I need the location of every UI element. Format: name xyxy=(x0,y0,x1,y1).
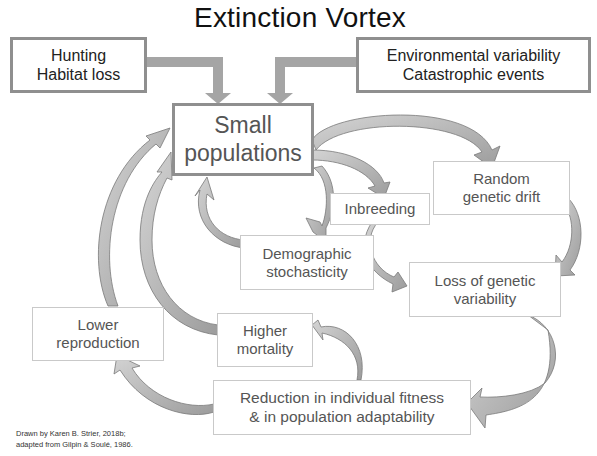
arrow-env-to-small xyxy=(267,57,357,104)
credit-line1: Drawn by Karen B. Strier, 2018b; xyxy=(16,429,133,440)
node-random-genetic-drift: Random genetic drift xyxy=(433,161,570,215)
node-loss-genetic-variability: Loss of genetic variability xyxy=(409,262,561,317)
arrow-hunting-to-small xyxy=(146,57,231,104)
node-lower-reproduction: Lower reproduction xyxy=(32,307,164,361)
node-environmental-line1: Environmental variability xyxy=(387,46,560,65)
node-small-line1: Small xyxy=(184,112,302,140)
node-environmental-line2: Catastrophic events xyxy=(387,65,560,84)
arrow-demographic-to-small xyxy=(195,177,244,248)
node-higher-mortality: Higher mortality xyxy=(217,313,313,367)
node-mortality-line1: Higher xyxy=(237,322,294,340)
credit-line2: adapted from Gilpin & Soulé, 1986. xyxy=(16,440,133,451)
node-small-line2: populations xyxy=(184,140,302,168)
node-reduction-fitness-adaptability: Reduction in individual fitness & in pop… xyxy=(213,380,471,435)
node-hunting-line1: Hunting xyxy=(37,46,121,65)
node-mortality-line2: mortality xyxy=(237,340,294,358)
node-demographic-line1: Demographic xyxy=(262,245,351,263)
arrow-reduction-to-mortality xyxy=(312,320,362,380)
node-drift-line2: genetic drift xyxy=(463,188,541,206)
node-reduction-line2: & in population adaptability xyxy=(240,408,444,427)
node-small-populations: Small populations xyxy=(172,103,314,176)
node-demographic-stochasticity: Demographic stochasticity xyxy=(240,235,374,290)
credit-text: Drawn by Karen B. Strier, 2018b; adapted… xyxy=(16,429,133,451)
node-demographic-line2: stochasticity xyxy=(262,263,351,281)
arrow-reduction-to-lower xyxy=(114,355,214,415)
arrow-loss-to-reduction xyxy=(467,315,556,428)
node-inbreeding-label: Inbreeding xyxy=(345,200,416,218)
node-drift-line1: Random xyxy=(463,170,541,188)
node-environmental-catastrophic: Environmental variability Catastrophic e… xyxy=(356,37,591,93)
node-lower-line1: Lower xyxy=(56,316,139,334)
node-lower-line2: reproduction xyxy=(56,334,139,352)
node-hunting-line2: Habitat loss xyxy=(37,65,121,84)
node-inbreeding: Inbreeding xyxy=(330,193,430,225)
node-reduction-line1: Reduction in individual fitness xyxy=(240,389,444,408)
node-loss-line2: variability xyxy=(435,290,536,308)
node-hunting-habitat-loss: Hunting Habitat loss xyxy=(10,37,147,93)
node-loss-line1: Loss of genetic xyxy=(435,272,536,290)
